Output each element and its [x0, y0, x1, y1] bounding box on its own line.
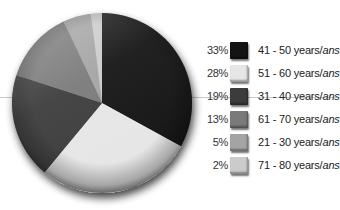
- legend-label: 31 - 40 years/ans: [258, 90, 340, 102]
- legend-item: 13% 61 - 70 years/ans: [204, 109, 337, 132]
- legend-percent: 28%: [206, 67, 228, 79]
- legend-item: 33% 41 - 50 years/ans: [204, 40, 337, 63]
- pie-chart-graphic: [0, 0, 210, 210]
- legend-item: 5% 21 - 30 years/ans: [204, 132, 337, 155]
- legend-label: 21 - 30 years/ans: [258, 136, 340, 148]
- legend-label: 61 - 70 years/ans: [258, 113, 340, 125]
- legend-percent: 13%: [206, 113, 228, 125]
- legend-percent: 5%: [206, 136, 228, 148]
- legend-item: 19% 31 - 40 years/ans: [204, 86, 337, 109]
- legend-label: 71 - 80 years/ans: [258, 159, 340, 171]
- pie-gloss: [12, 13, 192, 193]
- legend-item: 2% 71 - 80 years/ans: [204, 155, 337, 178]
- legend-swatch: [230, 134, 248, 151]
- legend-label: 41 - 50 years/ans: [258, 44, 340, 56]
- legend-swatch: [230, 65, 248, 82]
- legend-label: 51 - 60 years/ans: [258, 67, 340, 79]
- legend-item: 28% 51 - 60 years/ans: [204, 63, 337, 86]
- legend-swatch: [230, 157, 248, 174]
- legend-percent: 33%: [206, 44, 228, 56]
- legend-percent: 19%: [206, 90, 228, 102]
- legend-swatch: [230, 88, 248, 105]
- pie-chart: [0, 0, 210, 210]
- legend-swatch: [230, 111, 248, 128]
- legend-swatch: [230, 42, 248, 59]
- chart-legend: 33% 41 - 50 years/ans 28% 51 - 60 years/…: [204, 40, 337, 178]
- legend-percent: 2%: [206, 159, 228, 171]
